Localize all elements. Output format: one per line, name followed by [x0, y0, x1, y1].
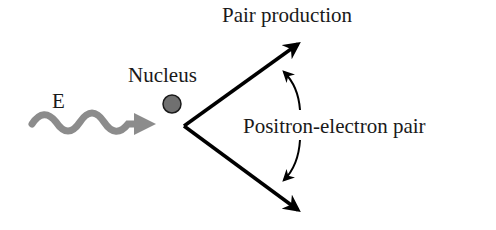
photon-wave-icon	[32, 113, 156, 135]
nucleus-label: Nucleus	[128, 63, 197, 87]
electron-arrow-icon	[184, 126, 298, 210]
pair-production-diagram: Pair production E Nucleus Positron-elect…	[0, 0, 496, 230]
curved-arrow-down-icon	[284, 140, 300, 180]
nucleus-icon	[163, 95, 181, 113]
pair-label: Positron-electron pair	[243, 114, 426, 138]
diagram-title: Pair production	[222, 3, 353, 27]
energy-label: E	[52, 89, 65, 113]
diagram-canvas: Pair production E Nucleus Positron-elect…	[0, 0, 496, 230]
curved-arrow-up-icon	[284, 72, 300, 110]
